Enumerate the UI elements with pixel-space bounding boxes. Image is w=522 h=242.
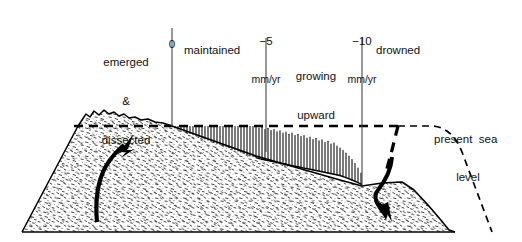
tick-unit: mm/yr bbox=[238, 73, 294, 86]
sea-level-line2: level bbox=[434, 171, 520, 184]
tick-value: 0 bbox=[152, 38, 192, 51]
zone-label-maintained: maintained bbox=[184, 44, 240, 57]
tick-value: −10 bbox=[334, 35, 390, 48]
tick-label-0: 0 bbox=[152, 13, 192, 76]
present-sea-level-label: present sea level bbox=[434, 108, 520, 208]
zone-label-line2: upward bbox=[280, 109, 352, 122]
tick-unit: mm/yr bbox=[334, 73, 390, 86]
sea-level-line1: present sea bbox=[434, 133, 520, 146]
tick-value: −5 bbox=[238, 35, 294, 48]
tick-label-minus5: −5 mm/yr bbox=[238, 10, 294, 110]
tick-label-minus10: −10 mm/yr bbox=[334, 10, 390, 110]
zone-label-line2: & bbox=[86, 95, 166, 108]
reef-subsidence-diagram: emerged & dissected maintained growing u… bbox=[0, 0, 522, 242]
zone-label-line3: dissected bbox=[86, 134, 166, 147]
